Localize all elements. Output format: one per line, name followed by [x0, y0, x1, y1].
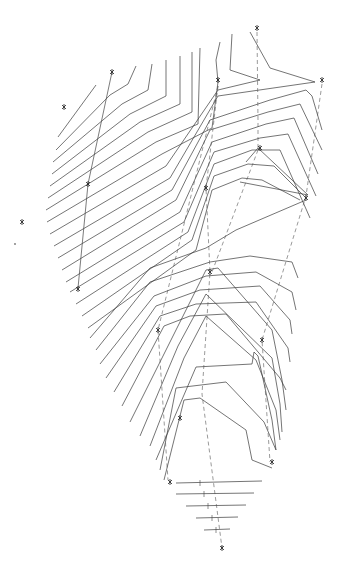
contour-line [96, 256, 298, 350]
survey-point [260, 337, 264, 343]
contour-line [56, 66, 136, 150]
survey-point-marker-icon [178, 415, 182, 421]
contour-lines [46, 32, 322, 530]
survey-point-marker-icon [20, 219, 24, 225]
survey-point-marker-icon [270, 459, 274, 465]
contour-line [82, 164, 304, 316]
contour-line [46, 48, 200, 210]
contour-map [0, 0, 353, 576]
survey-point [320, 77, 324, 83]
survey-point [168, 479, 172, 485]
survey-point [270, 459, 274, 465]
contour-line [58, 85, 96, 137]
survey-point-marker-icon [216, 77, 220, 83]
contour-line [156, 352, 276, 460]
survey-point-marker-icon [156, 327, 160, 333]
contour-line [88, 178, 300, 328]
survey-point-marker-icon [76, 286, 80, 292]
contour-line [186, 505, 246, 506]
survey-point [178, 415, 182, 421]
survey-point-marker-icon [86, 181, 90, 187]
survey-point-marker-icon [304, 195, 308, 201]
contour-line [50, 34, 260, 234]
survey-point [216, 77, 220, 83]
survey-point [304, 195, 308, 201]
reference-dot [14, 243, 16, 245]
survey-point [86, 181, 90, 187]
survey-point-marker-icon [110, 69, 114, 75]
survey-traverse-line [257, 32, 258, 150]
contour-line [150, 316, 280, 446]
survey-point-marker-icon [260, 337, 264, 343]
survey-point-marker-icon [220, 545, 224, 551]
contour-line [106, 286, 292, 378]
contour-line [204, 529, 230, 530]
contour-line [48, 52, 192, 198]
contour-line [53, 64, 152, 162]
contour-line [66, 118, 318, 282]
contour-line [196, 517, 238, 518]
survey-point-marker-icon [168, 479, 172, 485]
contour-line [70, 134, 316, 292]
survey-point-marker-icon [255, 25, 259, 31]
survey-point-marker-icon [62, 104, 66, 110]
survey-points [14, 25, 324, 551]
survey-point [110, 69, 114, 75]
contour-line [62, 104, 322, 270]
contour-line [176, 481, 262, 483]
contour-line [47, 42, 220, 222]
survey-point [255, 25, 259, 31]
survey-point [62, 104, 66, 110]
survey-point [220, 545, 224, 551]
contour-line [164, 398, 272, 480]
survey-traverse-line [202, 86, 222, 548]
survey-point-marker-icon [320, 77, 324, 83]
contour-line [52, 60, 166, 174]
survey-traverse-line [262, 84, 322, 462]
survey-point [156, 327, 160, 333]
survey-point [76, 286, 80, 292]
survey-point [20, 219, 24, 225]
